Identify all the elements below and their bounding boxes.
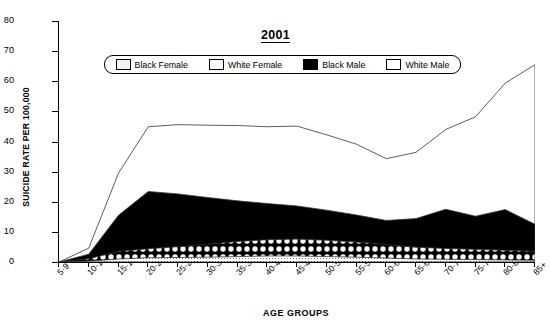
y-tick-label: 30 [0, 167, 14, 176]
legend-label-black-female: Black Female [135, 60, 188, 70]
legend-item-white-female[interactable]: White Female [209, 59, 282, 70]
legend-swatch-white-male [386, 59, 401, 70]
legend-swatch-black-male [303, 59, 318, 70]
legend-label-white-male: White Male [405, 60, 449, 70]
y-tick-label: 60 [0, 76, 14, 85]
y-tick-label: 40 [0, 137, 14, 146]
y-tick-label: 70 [0, 46, 14, 55]
legend-label-black-male: Black Male [322, 60, 365, 70]
legend-item-black-male[interactable]: Black Male [303, 59, 365, 70]
legend-swatch-black-female [116, 59, 131, 70]
x-axis-title: AGE GROUPS [58, 308, 534, 318]
legend-swatch-white-female [209, 59, 224, 70]
legend-label-white-female: White Female [228, 60, 282, 70]
legend-item-black-female[interactable]: Black Female [116, 59, 188, 70]
y-tick-label: 0 [0, 257, 14, 266]
chart-root: 2001 SUICIDE RATE PER 100,000 AGE GROUPS… [0, 0, 551, 331]
y-tick-label: 20 [0, 197, 14, 206]
y-axis-title: SUICIDE RATE PER 100,000 [21, 27, 31, 267]
y-tick-label: 10 [0, 227, 14, 236]
legend-item-white-male[interactable]: White Male [386, 59, 449, 70]
y-tick-label: 50 [0, 106, 14, 115]
y-tick-label: 80 [0, 16, 14, 25]
legend: Black Female White Female Black Male Whi… [104, 55, 461, 74]
